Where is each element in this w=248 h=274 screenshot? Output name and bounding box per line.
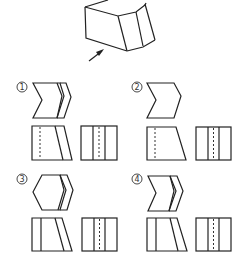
svg-text:4: 4 (134, 175, 139, 184)
option-label-1: 1 (17, 82, 27, 92)
svg-text:1: 1 (19, 83, 24, 92)
option-2: 2 (132, 82, 231, 160)
option-1-front-view (32, 126, 72, 160)
option-3-top-view (33, 175, 73, 210)
option-1-side-view (81, 126, 117, 160)
option-label-3: 3 (17, 174, 27, 184)
option-4-top-view (148, 176, 183, 211)
prism-solid (85, 0, 155, 51)
option-1: 1 (17, 82, 117, 160)
option-2-top-view (147, 83, 181, 118)
svg-text:3: 3 (19, 175, 24, 184)
option-3-front-view (32, 218, 72, 251)
diagram-canvas: 1 2 (0, 0, 248, 274)
front-direction-arrow (89, 49, 104, 61)
diagram-svg: 1 2 (0, 0, 248, 274)
option-2-front-view (147, 127, 186, 160)
option-4-side-view (196, 218, 231, 251)
option-1-top-view (33, 83, 71, 118)
option-2-side-view (196, 127, 231, 160)
option-label-2: 2 (132, 82, 142, 92)
option-3: 3 (17, 174, 117, 251)
option-4: 4 (132, 174, 231, 251)
option-3-side-view (82, 218, 117, 251)
option-label-4: 4 (132, 174, 142, 184)
svg-text:2: 2 (134, 83, 139, 92)
option-4-front-view (147, 218, 187, 251)
